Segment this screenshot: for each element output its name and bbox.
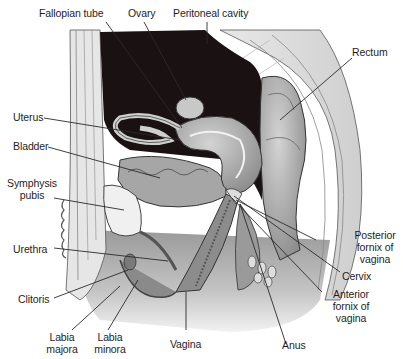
label-labia-majora-line1: Labia [42, 331, 82, 343]
label-labia-minora-line1: Labia [90, 331, 130, 343]
label-labia-majora-line2: majora [42, 343, 82, 355]
label-anus: Anus [282, 339, 306, 351]
label-uterus: Uterus [13, 111, 43, 123]
label-urethra: Urethra [13, 243, 47, 255]
label-labia-minora-line2: minora [90, 343, 130, 355]
label-anterior-fornix-line1: Anterior [326, 288, 376, 300]
label-ovary: Ovary [128, 7, 156, 19]
label-symphysis-pubis-line2: pubis [6, 189, 58, 201]
label-anterior-fornix: Anterior fornix of vagina [326, 288, 376, 324]
label-rectum: Rectum [352, 46, 388, 58]
anatomy-diagram: Fallopian tube Ovary Peritoneal cavity R… [0, 0, 403, 359]
label-posterior-fornix-line3: vagina [350, 253, 400, 265]
label-clitoris: Clitoris [18, 293, 49, 305]
label-vagina: Vagina [170, 338, 201, 350]
label-anterior-fornix-line3: vagina [326, 312, 376, 324]
label-cervix: Cervix [342, 270, 371, 282]
label-fallopian-tube: Fallopian tube [39, 7, 104, 19]
label-symphysis-pubis: Symphysis pubis [6, 177, 58, 201]
label-peritoneal-cavity: Peritoneal cavity [173, 7, 248, 19]
label-labia-majora: Labia majora [42, 331, 82, 355]
label-posterior-fornix: Posterior fornix of vagina [350, 229, 400, 265]
label-anterior-fornix-line2: fornix of [326, 300, 376, 312]
abdominal-wall [66, 30, 106, 300]
label-bladder: Bladder [13, 140, 49, 152]
label-posterior-fornix-line1: Posterior [350, 229, 400, 241]
label-labia-minora: Labia minora [90, 331, 130, 355]
label-posterior-fornix-line2: fornix of [350, 241, 400, 253]
ovary-shape [176, 97, 204, 119]
label-symphysis-pubis-line1: Symphysis [6, 177, 58, 189]
